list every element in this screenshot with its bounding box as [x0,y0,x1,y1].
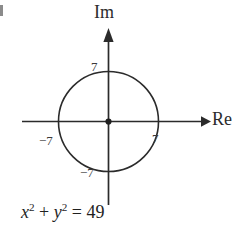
equation-plus: + [35,202,54,222]
imaginary-axis-arrowhead [103,28,113,42]
circle-equation: x2 + y2 = 49 [21,203,104,223]
equation-equals: = [67,202,86,222]
complex-plane-figure: Im Re 7 7 −7 −7 x2 + y2 = 49 [0,0,250,230]
real-axis-arrowhead [201,116,211,127]
page-edge-artifact [0,5,3,16]
origin-dot [105,118,111,124]
equation-rhs: 49 [86,202,104,222]
tick-label-bottom-minus-7: −7 [80,166,94,179]
imaginary-axis-label: Im [94,3,114,21]
equation-term-y: y [54,202,62,222]
tick-label-left-minus-7: −7 [39,134,53,147]
tick-label-top-7: 7 [91,60,98,73]
equation-term-x: x [21,202,29,222]
tick-label-right-7: 7 [152,132,159,145]
imaginary-axis [103,28,113,205]
real-axis [22,116,211,127]
real-axis-label: Re [212,110,232,128]
